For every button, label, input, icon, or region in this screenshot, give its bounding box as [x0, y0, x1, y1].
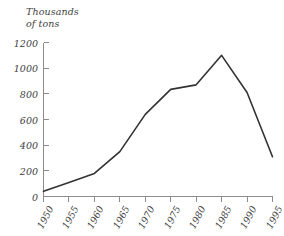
tick-marks [44, 43, 273, 202]
axis-lines [44, 43, 273, 197]
line-chart: Thousands of tons 020040060080010001200 … [0, 0, 284, 236]
data-series-line [44, 55, 273, 191]
plot-area [0, 0, 284, 236]
